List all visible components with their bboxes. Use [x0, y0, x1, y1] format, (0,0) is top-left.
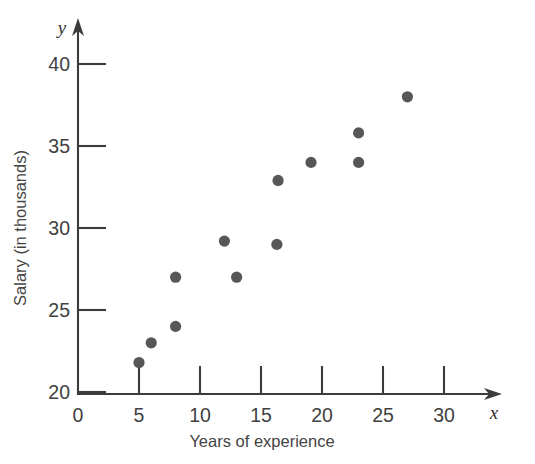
y-axis-title: Salary (in thousands)	[11, 150, 29, 306]
data-point	[146, 337, 157, 348]
y-tick-label-20: 20	[48, 381, 70, 403]
y-tick-label-35: 35	[48, 135, 70, 157]
x-tick-marks	[139, 366, 444, 394]
x-tick-label-10: 10	[189, 404, 211, 426]
x-tick-label-30: 30	[433, 404, 455, 426]
data-point	[133, 357, 144, 368]
y-axis	[72, 18, 84, 395]
data-points-layer	[133, 91, 413, 368]
data-point	[353, 127, 364, 138]
chart-canvas: 40 35 30 25 20 0 5 10 15 20 25 30 y x Ye…	[0, 0, 535, 464]
x-axis	[78, 388, 502, 400]
y-tick-label-40: 40	[48, 53, 70, 75]
data-point	[231, 272, 242, 283]
scatter-plot-figure: 40 35 30 25 20 0 5 10 15 20 25 30 y x Ye…	[0, 0, 535, 464]
x-tick-labels: 0 5 10 15 20 25 30	[73, 404, 455, 426]
x-tick-label-25: 25	[372, 404, 394, 426]
data-point	[219, 236, 230, 247]
x-tick-label-5: 5	[134, 404, 145, 426]
x-tick-label-15: 15	[250, 404, 272, 426]
data-point	[170, 272, 181, 283]
data-point	[353, 157, 364, 168]
x-axis-title: Years of experience	[189, 432, 334, 450]
data-point	[170, 321, 181, 332]
x-tick-label-0: 0	[73, 404, 84, 426]
data-point	[271, 239, 282, 250]
y-axis-symbol: y	[56, 17, 67, 38]
y-tick-label-30: 30	[48, 217, 70, 239]
x-axis-symbol: x	[489, 402, 499, 423]
data-point	[402, 91, 413, 102]
y-tick-labels: 40 35 30 25 20	[48, 53, 70, 403]
y-tick-marks	[78, 64, 106, 392]
data-point	[272, 175, 283, 186]
x-tick-label-20: 20	[311, 404, 333, 426]
y-tick-label-25: 25	[48, 299, 70, 321]
data-point	[305, 157, 316, 168]
